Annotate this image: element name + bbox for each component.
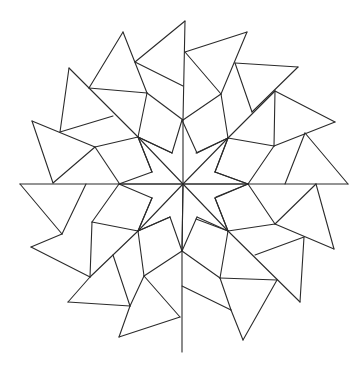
- line-segment: [235, 63, 298, 67]
- line-segment: [316, 184, 334, 249]
- line-segment: [90, 231, 138, 277]
- line-segment: [95, 137, 138, 147]
- line-segment: [62, 184, 86, 234]
- line-segment: [92, 184, 119, 222]
- line-segment: [89, 32, 123, 88]
- line-segment: [60, 116, 113, 132]
- line-segment: [172, 120, 182, 153]
- line-segment: [248, 146, 274, 184]
- line-segment: [123, 32, 147, 93]
- line-segment: [20, 184, 62, 234]
- line-segment: [182, 217, 197, 251]
- line-segment: [119, 317, 180, 337]
- line-segment: [113, 255, 130, 306]
- line-segment: [231, 310, 243, 340]
- line-segment: [235, 63, 252, 112]
- line-segment: [183, 184, 228, 231]
- line-segment: [185, 52, 221, 94]
- line-segment: [275, 224, 334, 249]
- line-segment: [31, 247, 90, 277]
- line-segment: [220, 231, 228, 278]
- line-segment: [228, 138, 274, 146]
- line-segment: [53, 147, 95, 183]
- line-segment: [31, 234, 62, 247]
- line-segment: [32, 121, 95, 147]
- line-segment: [138, 231, 144, 276]
- line-segment: [182, 184, 183, 251]
- line-segments: [20, 21, 348, 352]
- line-segment: [32, 121, 53, 183]
- line-segment: [119, 184, 152, 198]
- line-segment: [300, 237, 304, 302]
- line-segment: [228, 231, 300, 302]
- line-segment: [95, 147, 119, 183]
- line-segment: [182, 251, 220, 278]
- line-segment: [90, 222, 92, 277]
- line-segment: [135, 62, 183, 86]
- line-segment: [135, 21, 185, 62]
- line-segment: [60, 68, 69, 132]
- line-segment: [274, 91, 275, 146]
- line-segment: [170, 217, 182, 251]
- line-segment: [275, 91, 335, 122]
- line-segment: [255, 237, 304, 255]
- line-segment: [220, 278, 277, 280]
- line-segment: [147, 93, 183, 120]
- line-segment: [144, 276, 180, 317]
- line-segment: [183, 94, 221, 120]
- line-segment: [68, 277, 90, 302]
- line-segment: [215, 184, 248, 198]
- line-segment: [182, 120, 197, 153]
- line-segment: [228, 224, 275, 231]
- line-segment: [275, 184, 316, 224]
- line-segment: [215, 172, 248, 184]
- mandala-drawing: [0, 0, 363, 368]
- line-segment: [89, 88, 147, 93]
- line-segment: [228, 91, 275, 138]
- line-segment: [138, 137, 183, 184]
- line-segment: [68, 302, 130, 306]
- line-segment: [119, 306, 130, 337]
- line-segment: [119, 172, 152, 184]
- line-segment: [221, 94, 228, 138]
- line-segment: [243, 280, 277, 340]
- line-segment: [138, 93, 147, 137]
- line-segment: [305, 133, 348, 184]
- line-segment: [92, 222, 138, 231]
- line-segment: [138, 184, 183, 231]
- line-segment: [248, 184, 275, 224]
- line-segment: [183, 138, 228, 184]
- line-segment: [183, 21, 185, 120]
- line-segment: [130, 276, 144, 306]
- line-segment: [144, 251, 182, 276]
- line-segment: [185, 32, 247, 52]
